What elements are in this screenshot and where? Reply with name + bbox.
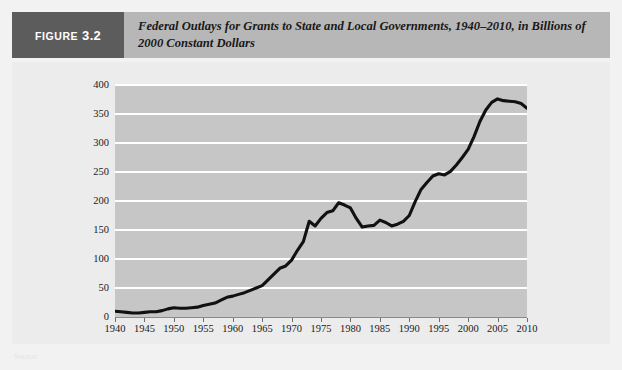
x-tick-2010 [527, 318, 528, 322]
line-series-svg [115, 85, 527, 317]
figure-header: FIGURE 3.2 Federal Outlays for Grants to… [12, 12, 610, 58]
x-tick-1955 [203, 318, 204, 322]
y-tick-label-300: 300 [75, 138, 109, 149]
y-tick-label-100: 100 [75, 254, 109, 265]
x-tick-1990 [409, 318, 410, 322]
figure-badge-number: 3.2 [82, 28, 101, 43]
figure-container: FIGURE 3.2 Federal Outlays for Grants to… [0, 0, 622, 370]
figure-number-badge: FIGURE 3.2 [12, 12, 124, 58]
y-tick-label-350: 350 [75, 109, 109, 120]
x-tick-1980 [350, 318, 351, 322]
y-tick-label-250: 250 [75, 167, 109, 178]
x-tick-1965 [262, 318, 263, 322]
figure-badge-prefix: FIGURE [35, 30, 78, 42]
x-tick-1985 [380, 318, 381, 322]
figure-number-badge-label: FIGURE 3.2 [35, 28, 101, 43]
x-tick-1940 [115, 318, 116, 322]
x-tick-1945 [144, 318, 145, 322]
x-tick-1995 [439, 318, 440, 322]
series-line-federal-grant-outlays [115, 99, 527, 313]
x-tick-2005 [498, 318, 499, 322]
x-tick-label-2010: 2010 [507, 324, 547, 335]
source-note: Source: [14, 352, 574, 362]
plot-wrapper [115, 85, 527, 317]
y-tick-label-0: 0 [75, 312, 109, 323]
y-axis-tick-labels: 050100150200250300350400 [69, 85, 109, 317]
x-tick-1975 [321, 318, 322, 322]
y-tick-label-50: 50 [75, 283, 109, 294]
x-tick-2000 [468, 318, 469, 322]
y-tick-label-400: 400 [75, 80, 109, 91]
x-tick-1970 [292, 318, 293, 322]
figure-title: Federal Outlays for Grants to State and … [138, 18, 600, 52]
x-tick-1960 [233, 318, 234, 322]
figure-title-container: Federal Outlays for Grants to State and … [124, 12, 610, 58]
y-tick-label-200: 200 [75, 196, 109, 207]
y-tick-label-150: 150 [75, 225, 109, 236]
x-tick-1950 [174, 318, 175, 322]
chart-panel: 050100150200250300350400 194019451950195… [12, 62, 610, 344]
